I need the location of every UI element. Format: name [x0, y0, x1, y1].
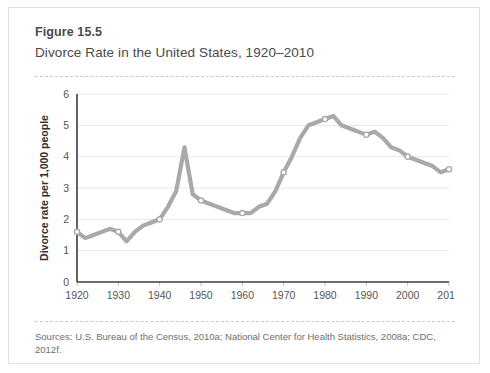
data-point-marker	[322, 116, 327, 121]
figure-number: Figure 15.5	[35, 24, 455, 41]
data-point-marker	[364, 132, 369, 137]
chart-plot-area: 0123456 19201930194019501960197019801990…	[35, 86, 455, 318]
divider-top	[35, 76, 455, 77]
x-tick-label: 1970	[272, 289, 296, 301]
data-point-marker	[405, 154, 410, 159]
data-point-marker	[240, 210, 245, 215]
data-point-marker	[74, 229, 79, 234]
data-point-marker	[157, 217, 162, 222]
y-tick-labels: 0123456	[63, 88, 69, 288]
x-tick-label: 2000	[396, 289, 420, 301]
data-markers	[74, 116, 451, 234]
figure-card: Figure 15.5 Divorce Rate in the United S…	[8, 7, 480, 364]
y-tick-label: 5	[63, 119, 69, 131]
x-tick-label: 1990	[355, 289, 379, 301]
x-tick-label: 1920	[65, 289, 89, 301]
figure-header: Figure 15.5 Divorce Rate in the United S…	[35, 24, 455, 62]
x-tick-label: 1960	[231, 289, 255, 301]
x-tick-label: 1980	[313, 289, 337, 301]
y-tick-label: 1	[63, 244, 69, 256]
y-tick-label: 2	[63, 213, 69, 225]
data-point-marker	[446, 167, 451, 172]
y-tick-label: 4	[63, 150, 69, 162]
y-tick-label: 6	[63, 88, 69, 100]
data-line-divorce-rate	[77, 116, 449, 241]
grid-lines	[77, 94, 449, 251]
x-tick-labels: 1920193019401950196019701980199020002010	[65, 289, 455, 301]
y-tick-label: 3	[63, 182, 69, 194]
x-tick-label: 1930	[107, 289, 131, 301]
y-tick-label: 0	[63, 276, 69, 288]
x-tick-label: 1940	[148, 289, 172, 301]
data-point-marker	[198, 198, 203, 203]
x-tick-label: 1950	[189, 289, 213, 301]
divider-bottom	[35, 321, 455, 322]
sources-note: Sources: U.S. Bureau of the Census, 2010…	[35, 330, 455, 356]
y-axis-title: Divorce rate per 1,000 people	[38, 115, 50, 261]
data-point-marker	[116, 229, 121, 234]
divorce-rate-line-chart: 0123456 19201930194019501960197019801990…	[35, 86, 455, 318]
page-title: Divorce Rate in the United States, 1920–…	[35, 43, 455, 62]
x-tick-label: 2010	[437, 289, 455, 301]
data-point-marker	[281, 170, 286, 175]
